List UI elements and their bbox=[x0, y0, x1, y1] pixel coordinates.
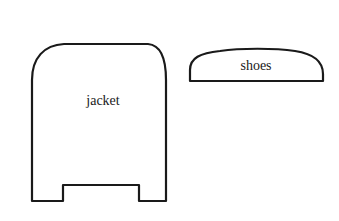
shoes-shape: shoes bbox=[190, 49, 323, 81]
jacket-label: jacket bbox=[85, 93, 120, 108]
jacket-shape: jacket bbox=[32, 44, 166, 201]
shoes-label: shoes bbox=[240, 58, 271, 73]
jacket-outline bbox=[32, 44, 166, 201]
diagram-canvas: jacket shoes bbox=[0, 0, 339, 221]
